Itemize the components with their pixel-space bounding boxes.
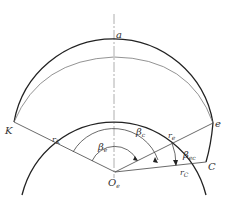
label-K: K	[4, 125, 13, 136]
label-e: e	[215, 118, 221, 129]
label-beta-c: βc	[135, 126, 146, 138]
label-beta-ec: βec	[182, 149, 196, 161]
label-a: a	[116, 29, 122, 40]
label-rC: rC	[180, 168, 189, 178]
radius-re	[115, 123, 213, 172]
radius-rC	[115, 162, 206, 172]
label-Oe: Oe	[108, 177, 120, 189]
label-beta-e: βe	[97, 141, 108, 153]
label-rK: rK	[52, 135, 61, 145]
label-re: re	[168, 131, 176, 141]
geometry-diagram: a K e C Oe rK re rC βc βe βec	[0, 0, 233, 205]
beta-c-arc	[73, 129, 158, 160]
diagram: a K e C Oe rK re rC βc βe βec	[0, 0, 233, 205]
label-C: C	[208, 161, 216, 172]
